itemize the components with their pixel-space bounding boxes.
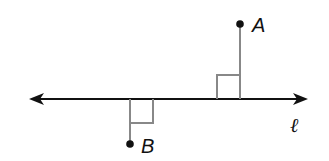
line-l: [29, 93, 308, 105]
right-angle-mark-b: [130, 99, 153, 123]
point-b: [126, 140, 134, 148]
point-a: [236, 20, 244, 28]
right-angle-mark-a: [217, 75, 240, 99]
label-b: B: [141, 136, 154, 156]
diagram-canvas: [0, 0, 329, 161]
label-a: A: [252, 15, 265, 35]
perpendicular-a: [217, 20, 244, 99]
label-line: ℓ: [290, 115, 298, 135]
